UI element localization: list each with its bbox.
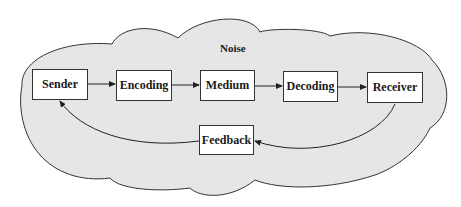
diagram-graphics (0, 0, 461, 207)
node-decoding: Decoding (283, 71, 338, 102)
node-medium: Medium (200, 70, 255, 101)
noise-label: Noise (220, 42, 246, 54)
communication-process-diagram: Noise Sender Encoding Medium Decoding Re… (0, 0, 461, 207)
node-sender: Sender (32, 69, 88, 100)
node-encoding: Encoding (116, 70, 172, 101)
node-feedback: Feedback (199, 125, 254, 155)
node-receiver: Receiver (367, 72, 423, 103)
